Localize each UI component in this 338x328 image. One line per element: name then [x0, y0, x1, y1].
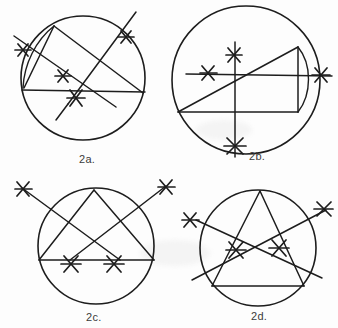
figure-2b [160, 2, 338, 157]
figure-label-2b: 2b. [249, 150, 265, 162]
triangle-right-side-2c [94, 190, 154, 260]
figure-2c [14, 178, 176, 310]
secant-lower-left-to-upper-right-2d [192, 210, 326, 280]
secant-upper-left-2a [14, 36, 116, 107]
figure-label-2a: 2a. [79, 153, 95, 165]
diagonal-chord-2b [178, 47, 298, 112]
figure-label-2d: 2d. [251, 310, 267, 322]
chord-horizontal-2a [22, 90, 145, 92]
asterisk-marker-2d-4 [269, 240, 289, 256]
figure-label-2c: 2c. [86, 311, 102, 323]
asterisk-marker-2d-2 [314, 202, 333, 216]
secant-upper-right-tail-2a [56, 104, 68, 120]
secant-upper-right-2a [68, 12, 136, 104]
circle-2c [38, 188, 154, 304]
asterisk-marker-2b-1 [226, 48, 242, 62]
asterisk-marker-2a-3 [55, 70, 71, 82]
scanned-page: 2a. [0, 0, 338, 328]
arc-right-2b [298, 47, 309, 112]
figure-2d [180, 182, 338, 310]
triangle-left-side-2c [39, 190, 94, 260]
asterisk-marker-2c-2 [158, 180, 175, 194]
secant-left-to-lower-right-2d [196, 220, 322, 278]
circle-2a [21, 16, 145, 140]
asterisk-marker-2c-4 [104, 256, 124, 272]
asterisk-marker-2d-1 [182, 213, 199, 227]
secant-from-upper-left-2c [22, 188, 120, 260]
asterisk-marker-2b-2 [200, 66, 217, 80]
asterisk-marker-2d-3 [226, 242, 246, 258]
secant-to-upper-right-2c [70, 186, 166, 260]
figure-2a [8, 8, 158, 153]
asterisk-marker-2b-3 [312, 68, 330, 82]
